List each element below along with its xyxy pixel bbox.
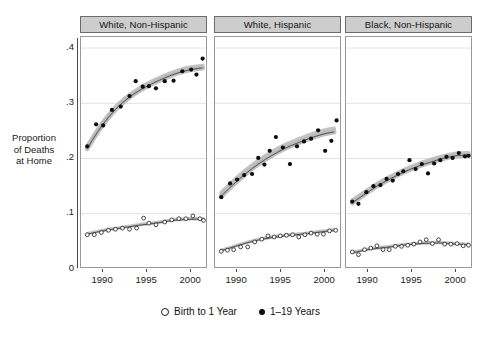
data-point-open — [260, 237, 264, 241]
data-point-open — [285, 233, 289, 237]
x-axis-tick-mark — [280, 269, 281, 272]
data-point-filled — [235, 177, 239, 181]
filled-circle-icon — [259, 309, 265, 315]
data-point-filled — [364, 190, 368, 194]
data-point-open — [239, 245, 243, 249]
data-point-filled — [391, 179, 395, 183]
data-point-open — [437, 238, 441, 242]
data-point-filled — [350, 200, 354, 204]
data-point-open — [184, 217, 188, 221]
data-point-filled — [329, 139, 333, 143]
data-point-open — [107, 228, 111, 232]
x-axis-tick-label: 1995 — [136, 274, 157, 285]
data-point-open — [363, 248, 367, 252]
y-axis-tick-label: .3 — [52, 96, 74, 107]
data-point-filled — [180, 69, 184, 73]
x-axis-tick-label: 1990 — [92, 274, 113, 285]
data-point-filled — [407, 158, 411, 162]
data-point-filled — [466, 154, 470, 158]
confidence-band — [352, 155, 468, 203]
data-point-filled — [94, 122, 98, 126]
data-point-open — [202, 218, 206, 222]
data-point-open — [315, 232, 319, 236]
panel-plot-area-2 — [345, 36, 472, 268]
x-axis-tick-label: 1990 — [357, 274, 378, 285]
data-point-open — [163, 220, 167, 224]
data-point-filled — [228, 181, 232, 185]
data-point-open — [291, 233, 295, 237]
data-point-open — [350, 250, 354, 254]
data-point-filled — [134, 79, 138, 83]
data-point-filled — [451, 156, 455, 160]
data-point-filled — [119, 105, 123, 109]
data-point-open — [424, 238, 428, 242]
data-point-filled — [438, 158, 442, 162]
data-point-filled — [281, 145, 285, 149]
x-axis-tick-mark — [190, 269, 191, 272]
data-point-open — [328, 229, 332, 233]
x-axis-tick-mark — [146, 269, 147, 272]
data-point-filled — [295, 144, 299, 148]
fit-line — [87, 68, 202, 149]
data-point-open — [135, 226, 139, 230]
y-axis-label-line-1: Proportion — [2, 132, 66, 144]
data-point-filled — [163, 79, 167, 83]
data-point-open — [334, 228, 338, 232]
data-point-filled — [414, 167, 418, 171]
panel-plot-area-1 — [214, 36, 341, 268]
legend-label-0: Birth to 1 Year — [174, 306, 237, 317]
data-point-filled — [242, 173, 246, 177]
data-point-open — [387, 248, 391, 252]
data-point-open — [418, 240, 422, 244]
x-axis-tick-label: 2000 — [445, 274, 466, 285]
data-point-filled — [302, 139, 306, 143]
data-point-open — [266, 234, 270, 238]
data-point-filled — [420, 162, 424, 166]
data-point-open — [154, 223, 158, 227]
data-point-filled — [309, 137, 313, 141]
data-point-filled — [432, 161, 436, 165]
data-point-filled — [268, 149, 272, 153]
data-point-filled — [426, 171, 430, 175]
x-axis-tick-mark — [324, 269, 325, 272]
legend-item-birth-to-1-year: Birth to 1 Year — [161, 306, 237, 317]
panel-strip-label-1: White, Hispanic — [214, 16, 341, 33]
data-point-open — [92, 233, 96, 237]
data-point-open — [375, 244, 379, 248]
data-point-open — [406, 243, 410, 247]
x-axis-tick-label: 1990 — [226, 274, 247, 285]
panel-white-non-hispanic: White, Non-Hispanic — [80, 16, 207, 268]
x-axis-tick-mark — [455, 269, 456, 272]
panel-black-non-hispanic: Black, Non-Hispanic — [345, 16, 472, 268]
data-point-open — [147, 221, 151, 225]
data-point-open — [321, 232, 325, 236]
confidence-band — [87, 66, 202, 147]
legend: Birth to 1 Year 1–19 Years — [0, 306, 481, 317]
data-point-open — [219, 249, 223, 253]
fit-line — [221, 132, 334, 196]
data-point-filled — [316, 128, 320, 132]
legend-label-1: 1–19 Years — [270, 306, 320, 317]
x-axis-tick-label: 1995 — [270, 274, 291, 285]
data-point-filled — [444, 155, 448, 159]
data-point-open — [303, 233, 307, 237]
panel-plot-area-0 — [80, 36, 207, 268]
data-point-open — [369, 246, 373, 250]
data-point-open — [170, 218, 174, 222]
data-point-filled — [101, 123, 105, 127]
data-point-filled — [147, 84, 151, 88]
data-point-filled — [110, 108, 114, 112]
data-point-open — [272, 235, 276, 239]
data-point-open — [449, 242, 453, 246]
data-point-open — [381, 248, 385, 252]
fit-line — [352, 155, 468, 203]
data-point-open — [226, 248, 230, 252]
data-point-filled — [323, 149, 327, 153]
data-point-filled — [396, 172, 400, 176]
data-point-open — [357, 253, 361, 257]
data-point-filled — [201, 56, 205, 60]
y-axis-tick-label: .4 — [52, 41, 74, 52]
panel-strip-label-0: White, Non-Hispanic — [80, 16, 207, 33]
legend-item-1-19-years: 1–19 Years — [259, 306, 320, 317]
data-point-open — [128, 227, 132, 231]
